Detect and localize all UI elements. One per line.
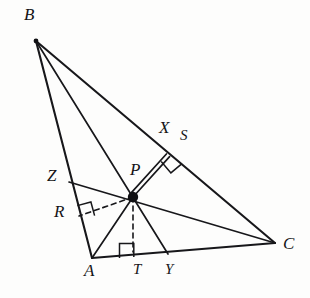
geometry-figure: B A C P X S Z R T Y [0,0,310,298]
segment-cevian-Z-to-C [69,182,275,243]
point-label-R: R [54,203,64,220]
point-label-A: A [84,262,94,279]
segment-cevian-A-to-P [92,197,133,258]
point-label-P: P [130,161,140,178]
point-label-C: C [283,235,294,252]
segment-side-BA [36,41,92,258]
segment-side-BC [36,41,275,243]
point-label-B: B [24,6,34,23]
segment-cevian-B-to-Y [36,41,168,254]
geometry-canvas [0,0,310,298]
point-label-Z: Z [47,167,56,184]
point-label-X: X [159,119,169,136]
point-label-T: T [133,262,141,277]
point-label-S: S [180,128,188,143]
segment-perpendicular-P-to-R [79,197,133,216]
vertex-dot-B [34,39,39,44]
vertex-dot-P [128,192,138,202]
point-label-Y: Y [165,262,173,277]
